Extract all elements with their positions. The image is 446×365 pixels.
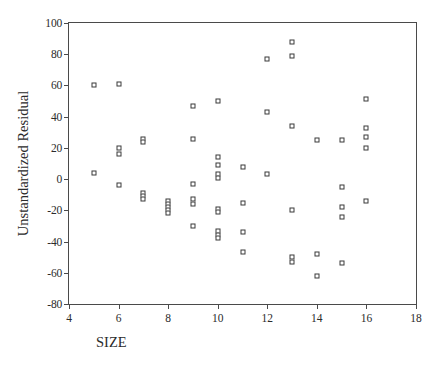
x-tick-mark <box>416 304 417 309</box>
data-point <box>215 163 220 168</box>
x-tick-mark <box>69 304 70 309</box>
y-tick-label: -80 <box>47 298 62 310</box>
x-tick-mark <box>119 304 120 309</box>
data-point <box>290 124 295 129</box>
data-point <box>290 208 295 213</box>
y-tick-label: 0 <box>56 173 62 185</box>
data-point <box>290 259 295 264</box>
data-point <box>215 236 220 241</box>
x-tick-label: 14 <box>311 312 323 324</box>
data-point <box>116 145 121 150</box>
y-tick-label: -40 <box>47 236 62 248</box>
data-point <box>116 81 121 86</box>
data-point <box>339 184 344 189</box>
y-axis-title: Unstandardized Residual <box>14 22 34 305</box>
y-axis-title-text: Unstandardized Residual <box>16 91 33 236</box>
data-point <box>364 134 369 139</box>
data-point <box>215 209 220 214</box>
y-tick-label: -60 <box>47 267 62 279</box>
data-point <box>116 152 121 157</box>
data-point <box>339 205 344 210</box>
data-points-layer <box>69 23 416 304</box>
data-point <box>215 155 220 160</box>
x-tick-mark <box>218 304 219 309</box>
data-point <box>265 172 270 177</box>
x-tick-label: 4 <box>66 312 72 324</box>
data-point <box>240 250 245 255</box>
y-tick-label: 60 <box>51 79 62 91</box>
data-point <box>240 230 245 235</box>
data-point <box>314 252 319 257</box>
data-point <box>339 138 344 143</box>
x-tick-label: 6 <box>116 312 122 324</box>
data-point <box>166 211 171 216</box>
data-point <box>190 223 195 228</box>
data-point <box>240 164 245 169</box>
data-point <box>91 83 96 88</box>
data-point <box>364 97 369 102</box>
x-tick-mark <box>317 304 318 309</box>
x-axis-title: SIZE <box>96 334 127 351</box>
y-tick-label: 20 <box>51 142 62 154</box>
data-point <box>290 53 295 58</box>
data-point <box>314 273 319 278</box>
plot-area: 100806040200-20-40-60-80 4681012141618 <box>68 22 417 305</box>
data-point <box>240 200 245 205</box>
scatter-plot-figure: Unstandardized Residual 100806040200-20-… <box>0 0 446 365</box>
data-point <box>339 261 344 266</box>
data-point <box>190 181 195 186</box>
data-point <box>116 183 121 188</box>
x-tick-label: 8 <box>165 312 171 324</box>
data-point <box>190 202 195 207</box>
data-point <box>190 136 195 141</box>
x-tick-mark <box>168 304 169 309</box>
x-tick-label: 18 <box>410 312 422 324</box>
x-tick-label: 16 <box>361 312 373 324</box>
data-point <box>265 109 270 114</box>
data-point <box>314 138 319 143</box>
y-tick-label: 40 <box>51 111 62 123</box>
data-point <box>364 198 369 203</box>
data-point <box>364 145 369 150</box>
data-point <box>215 175 220 180</box>
data-point <box>141 197 146 202</box>
data-point <box>141 139 146 144</box>
y-tick-label: 100 <box>45 17 62 29</box>
y-tick-label: -20 <box>47 204 62 216</box>
data-point <box>364 125 369 130</box>
x-tick-mark <box>267 304 268 309</box>
x-tick-label: 10 <box>212 312 224 324</box>
x-tick-mark <box>366 304 367 309</box>
data-point <box>339 214 344 219</box>
x-tick-label: 12 <box>262 312 274 324</box>
data-point <box>215 99 220 104</box>
data-point <box>265 56 270 61</box>
data-point <box>190 103 195 108</box>
y-tick-label: 80 <box>51 48 62 60</box>
data-point <box>91 170 96 175</box>
data-point <box>290 39 295 44</box>
